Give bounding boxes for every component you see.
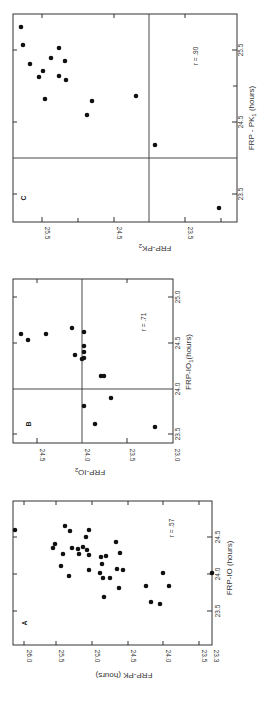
panel-a-pk-tick-26-0: 26.0 [26,650,33,663]
panel-a-points [13,524,215,607]
panel-a-io-tick-24-0: 24.0 [214,567,221,580]
panel-b-io2-tick-24-0: 24.0 [84,449,91,462]
panel-c-pk2-axis-label: FRP-PK2 [138,243,171,253]
panel-c-pk1-tick-25-5: 25.5 [237,43,244,56]
panel-b-io2-axis-label: FRP-IO2 [74,467,105,477]
panel-b-io2-tick-24-5: 24.5 [39,449,46,462]
panel-a-pk-axis-label: FRP-PK (hours) [95,671,152,680]
panel-a-pk-tick-25-0: 25.0 [94,650,101,663]
panel-b-io1-tick-24-0: 24.0 [174,382,181,395]
panel-b-io1-tick-24-5: 24.5 [174,336,181,349]
panel-b-frame [13,279,173,443]
figure-canvas: 25.5 24.5 23.5 FRP-PK2 25.5 24.5 23.5 FR… [0,0,260,701]
panel-c-frame [13,14,237,222]
panel-a-io-tick-24-5: 24.5 [214,530,221,543]
panel-c-bottom-ticks [42,217,221,222]
panel-a: 26.0 25.5 25.0 24.5 24.0 23.5 23.3 FRP-P… [13,501,234,680]
panel-b-points [19,326,158,430]
panel-a-correlation: r = .57 [168,518,175,537]
panel-a-io-axis-label: FRP-IO (hours) [225,540,234,595]
panel-a-io-tick-23-5: 23.5 [214,604,221,617]
panel-a-right-ticks [13,537,212,611]
panel-c-letter: C [20,195,27,200]
panel-c-pk1-axis-label: FRP - PK1 (hours) [247,85,257,150]
panel-a-pk-tick-25-5: 25.5 [58,650,65,663]
panel-b-correlation: r = .71 [140,312,147,331]
panel-c: 25.5 24.5 23.5 FRP-PK2 25.5 24.5 23.5 FR… [13,14,257,253]
panel-c-inner-ticks [13,14,185,194]
panel-c-pk2-tick-23-5: 23.5 [187,227,194,240]
panel-a-pk-tick-24-0: 24.0 [165,650,172,663]
panel-a-pk-tick-23-3: 23.3 [213,650,220,663]
panel-b-right-ticks [13,297,173,434]
panel-b-io2-tick-23-0: 23.0 [174,449,181,462]
panel-b: 24.5 24.0 23.5 23.0 FRP-IO2 25.0 24.5 24… [13,279,194,477]
panel-b-io1-tick-23-5: 23.5 [174,427,181,440]
panel-c-pk1-tick-24-5: 24.5 [237,115,244,128]
panel-c-pk1-tick-23-5: 23.5 [237,187,244,200]
panel-c-pk2-tick-25-5: 25.5 [44,227,51,240]
panel-b-io2-tick-23-5: 23.5 [129,449,136,462]
panel-b-letter: B [25,421,32,426]
panel-a-letter: A [21,620,28,625]
panel-a-pk-tick-23-5: 23.5 [201,650,208,663]
panel-a-pk-tick-24-5: 24.5 [130,650,137,663]
panel-b-io1-tick-25-0: 25.0 [174,290,181,303]
panel-b-io1-axis-label: FRP-IO1(hours) [184,334,194,390]
panel-c-pk2-tick-24-5: 24.5 [116,227,123,240]
panel-c-points [19,25,222,211]
panel-c-correlation: r = .90 [192,46,199,65]
panel-a-frame [13,501,212,645]
